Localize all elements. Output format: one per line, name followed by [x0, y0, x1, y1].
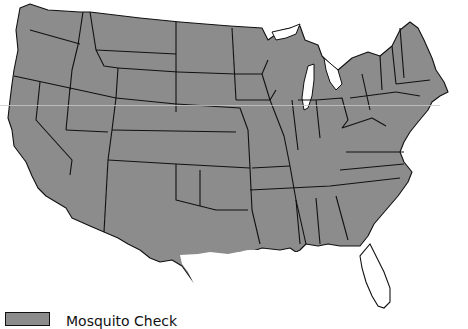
- unshaded-gulf-coast: [180, 248, 386, 310]
- florida-peninsula: [360, 244, 390, 308]
- legend-label: Mosquito Check: [66, 313, 177, 329]
- legend-swatch: [5, 312, 50, 326]
- us-landmass: [8, 4, 448, 296]
- legend: Mosquito Check: [5, 312, 425, 326]
- scan-line-artifact: [0, 105, 440, 106]
